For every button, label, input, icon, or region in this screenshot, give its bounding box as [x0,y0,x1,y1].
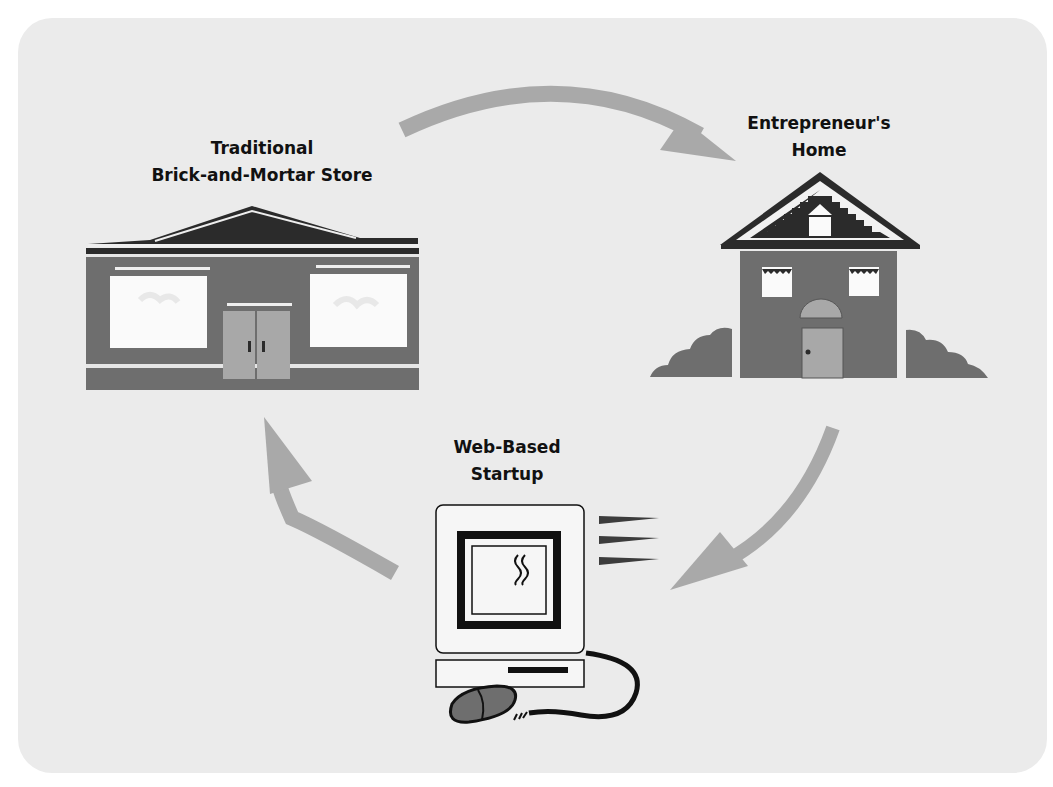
arrow-store-to-home [402,94,736,161]
web-label-line-1: Web-Based [453,434,560,461]
arrow-home-to-web [670,428,833,590]
home-label-line-2: Home [747,137,890,164]
diagram-canvas [0,0,1053,787]
house-icon [650,172,988,378]
arrow-web-to-store [264,417,395,573]
storefront-icon [86,206,419,390]
store-label: Traditional Brick-and-Mortar Store [151,135,372,189]
computer-icon [436,505,659,722]
store-label-line-2: Brick-and-Mortar Store [151,162,372,189]
web-label: Web-Based Startup [453,434,560,488]
store-label-line-1: Traditional [151,135,372,162]
web-label-line-2: Startup [453,461,560,488]
home-label-line-1: Entrepreneur's [747,110,890,137]
home-label: Entrepreneur's Home [747,110,890,164]
